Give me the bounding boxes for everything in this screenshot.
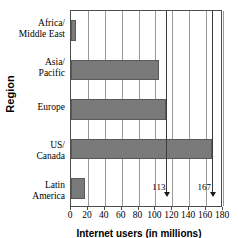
x-axis-title: Internet users (in millions): [40, 228, 238, 238]
category-label-line2: Pacific: [0, 68, 65, 79]
x-axis-tick-labels: 020406080100120140160180: [70, 210, 222, 224]
category-label-asia-pacific: Asia/ Pacific: [0, 57, 65, 78]
category-label-line2: Canada: [0, 151, 65, 162]
category-label-line2: America: [0, 191, 65, 202]
bar: [71, 60, 159, 80]
category-label-line1: Latin: [0, 180, 65, 191]
category-label-line1: Asia/: [0, 57, 65, 68]
category-label-column: Africa/ Middle East Asia/ Pacific Europe…: [0, 10, 68, 207]
category-label-line1: Europe: [0, 102, 65, 113]
category-label-europe: Europe: [0, 102, 65, 113]
callout-line: 167: [212, 11, 213, 194]
bar: [71, 139, 212, 159]
category-label-line1: US/: [0, 140, 65, 151]
callout-arrow-icon: [210, 192, 216, 197]
category-label-line2: Middle East: [0, 29, 65, 40]
bar: [71, 99, 166, 119]
x-axis-tick-label: 180: [210, 210, 234, 221]
category-label-us-canada: US/ Canada: [0, 140, 65, 161]
category-label-latin-america: Latin America: [0, 180, 65, 201]
callout-value: 167: [198, 183, 212, 192]
bar-series: [71, 11, 221, 206]
gridline: [223, 11, 224, 206]
callout-line: 113: [166, 11, 167, 194]
bar: [71, 20, 76, 40]
callout-arrow-icon: [164, 192, 170, 197]
plot-area: 113167: [70, 10, 222, 207]
bar: [71, 178, 85, 198]
category-label-line1: Africa/: [0, 18, 65, 29]
category-label-africa-middle-east: Africa/ Middle East: [0, 18, 65, 39]
bar-chart: Region Africa/ Middle East Asia/ Pacific…: [0, 0, 238, 238]
callout-value: 113: [152, 183, 165, 192]
